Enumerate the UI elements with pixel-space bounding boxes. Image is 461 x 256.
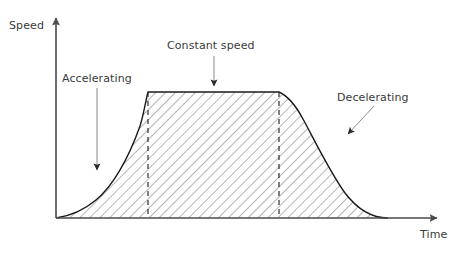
decelerating-label: Decelerating <box>337 91 409 104</box>
speed-time-graph-figure: Speed Time Accelerating Constant speed D… <box>0 0 461 256</box>
x-axis-label: Time <box>420 228 447 241</box>
y-axis-label: Speed <box>9 19 44 32</box>
decelerating-arrow <box>348 106 374 134</box>
accelerating-label: Accelerating <box>62 72 132 85</box>
speed-area-fill <box>56 92 388 218</box>
constant-speed-label: Constant speed <box>167 39 255 52</box>
